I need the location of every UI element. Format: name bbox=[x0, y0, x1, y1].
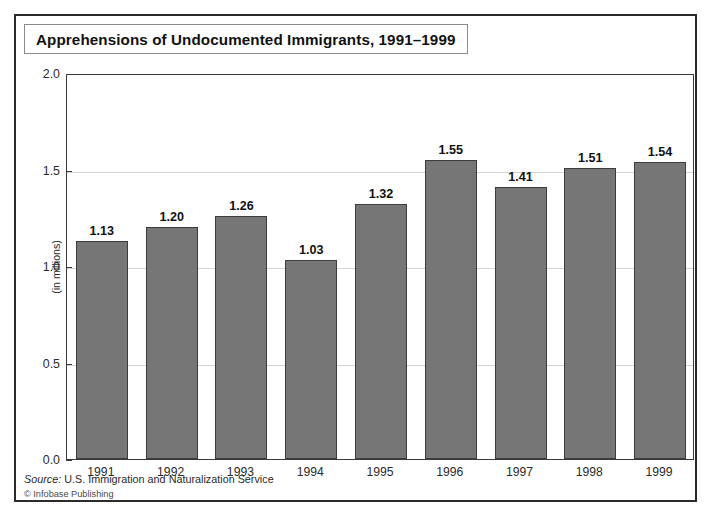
bar-value-label: 1.03 bbox=[285, 243, 337, 257]
y-tick-label: 1.0 bbox=[43, 260, 60, 274]
x-tick-label: 1996 bbox=[415, 465, 485, 479]
bar bbox=[215, 216, 267, 459]
bar bbox=[76, 241, 128, 459]
source-text: U.S. Immigration and Naturalization Serv… bbox=[61, 473, 273, 485]
y-tick-mark bbox=[66, 171, 72, 172]
y-tick-mark bbox=[66, 267, 72, 268]
y-tick-label: 1.5 bbox=[43, 164, 60, 178]
bar-value-label: 1.32 bbox=[355, 187, 407, 201]
y-tick-label: 0.5 bbox=[43, 357, 60, 371]
bar-value-label: 1.54 bbox=[634, 145, 686, 159]
x-tick-label: 1994 bbox=[275, 465, 345, 479]
bar bbox=[564, 168, 616, 459]
x-tick-label: 1999 bbox=[624, 465, 694, 479]
bars-layer: 1.131.201.261.031.321.551.411.511.54 bbox=[67, 75, 693, 459]
y-tick-mark bbox=[66, 364, 72, 365]
x-tick-label: 1998 bbox=[554, 465, 624, 479]
y-axis-tick-labels: 0.00.51.01.52.0 bbox=[16, 74, 60, 460]
bar-value-label: 1.41 bbox=[495, 170, 547, 184]
y-tick-label: 0.0 bbox=[43, 453, 60, 467]
bar bbox=[146, 227, 198, 459]
bar-value-label: 1.13 bbox=[76, 224, 128, 238]
plot-area: 1.131.201.261.031.321.551.411.511.54 bbox=[66, 74, 694, 460]
bar-value-label: 1.20 bbox=[146, 210, 198, 224]
y-tick-mark bbox=[66, 460, 72, 461]
source-note: Source: U.S. Immigration and Naturalizat… bbox=[24, 473, 274, 485]
bar-value-label: 1.51 bbox=[564, 151, 616, 165]
chart-title-box: Apprehensions of Undocumented Immigrants… bbox=[24, 24, 468, 54]
source-label: Source: bbox=[24, 473, 61, 485]
x-tick-label: 1995 bbox=[345, 465, 415, 479]
x-tick-label: 1997 bbox=[485, 465, 555, 479]
bar bbox=[495, 187, 547, 459]
y-tick-label: 2.0 bbox=[43, 67, 60, 81]
bar-value-label: 1.26 bbox=[215, 199, 267, 213]
figure-frame: Apprehensions of Undocumented Immigrants… bbox=[14, 14, 697, 502]
page-title: Apprehensions of Undocumented Immigrants… bbox=[36, 31, 456, 48]
bar bbox=[285, 260, 337, 459]
bar bbox=[355, 204, 407, 459]
copyright-note: © Infobase Publishing bbox=[24, 489, 114, 499]
bar bbox=[634, 162, 686, 459]
bar bbox=[425, 160, 477, 459]
bar-value-label: 1.55 bbox=[425, 143, 477, 157]
y-tick-mark bbox=[66, 74, 72, 75]
